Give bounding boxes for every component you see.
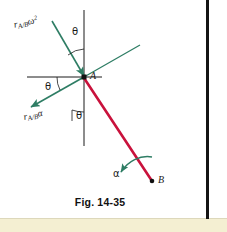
rigid-link-ab — [84, 78, 152, 181]
point-b-marker — [150, 179, 155, 184]
r-ab-omega-squared-arrow — [52, 21, 84, 76]
figure-caption: Fig. 14-35 — [0, 196, 200, 208]
page-right-edge — [206, 0, 209, 219]
theta-left-arc — [57, 77, 60, 90]
point-a-marker — [82, 75, 87, 80]
alpha-rotation-arrow — [121, 157, 152, 172]
page-bottom-strip — [0, 218, 227, 232]
alpha-rotation-label: α — [113, 169, 120, 179]
theta-left-label: θ — [45, 82, 51, 92]
point-b-label: B — [158, 175, 164, 185]
point-a-label: A — [90, 71, 96, 81]
theta-top-label: θ — [72, 27, 78, 37]
figure-page: rA/Bω2 rA/Bα A B θ θ θ α Fig. 14-35 — [0, 0, 227, 232]
theta-bottom-label: θ — [76, 111, 82, 121]
